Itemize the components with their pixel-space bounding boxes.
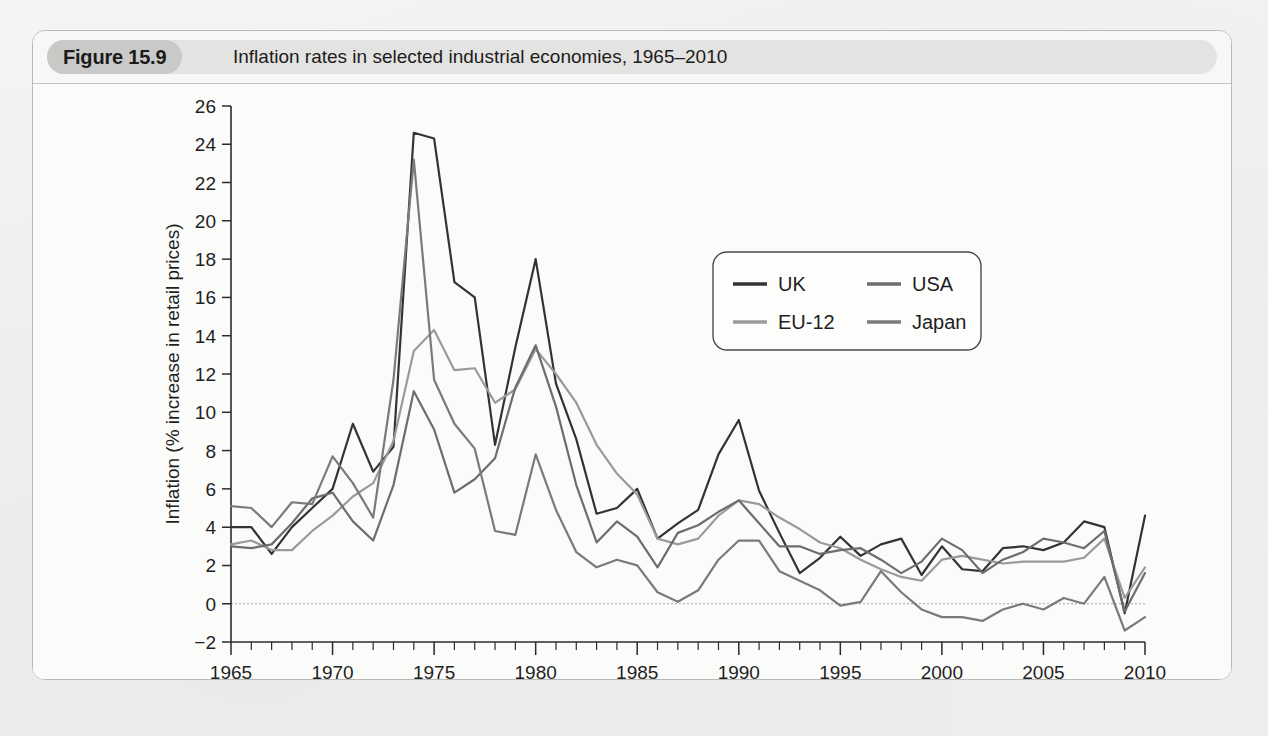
y-tick-label: −2 [194,632,216,653]
x-tick-label: 1985 [616,662,658,680]
figure-header: Inflation rates in selected industrial e… [33,31,1231,84]
x-tick-label: 1990 [718,662,760,680]
x-tick-label: 1970 [311,662,353,680]
y-tick-label: 12 [195,364,216,385]
chart-legend[interactable]: UKUSAEU-12Japan [713,252,981,350]
y-tick-label: 24 [195,134,217,155]
y-tick-label: 22 [195,173,216,194]
legend-label-usa: USA [912,273,954,295]
y-tick-label: 2 [205,555,216,576]
y-tick-label: 18 [195,249,216,270]
y-tick-label: 6 [205,479,216,500]
figure-body: −202468101214161820222426 19651970197519… [33,84,1231,680]
figure-card: Inflation rates in selected industrial e… [32,30,1232,680]
y-axis-title-text: Inflation (% increase in retail prices) [162,224,183,525]
y-tick-label: 0 [205,594,216,615]
x-tick-label: 2005 [1022,662,1064,680]
x-tick-label: 2000 [921,662,963,680]
legend-label-eu-12: EU-12 [778,311,835,333]
y-tick-label: 20 [195,211,216,232]
y-tick-label: 26 [195,96,216,117]
y-tick-label: 4 [205,517,216,538]
legend-label-uk: UK [778,273,806,295]
legend-label-japan: Japan [912,311,967,333]
inflation-line-chart: −202468101214161820222426 19651970197519… [33,84,1231,680]
x-tick-label: 1965 [210,662,252,680]
figure-number-badge: Figure 15.9 [47,40,182,74]
x-tick-label: 2010 [1124,662,1166,680]
x-tick-label: 1975 [413,662,455,680]
legend-panel[interactable] [713,252,981,350]
x-tick-label: 1980 [515,662,557,680]
y-tick-label: 14 [195,326,217,347]
x-tick-label: 1995 [819,662,861,680]
y-axis-title: Inflation (% increase in retail prices) [162,224,183,525]
y-tick-label: 16 [195,287,216,308]
y-tick-label: 8 [205,441,216,462]
figure-title: Inflation rates in selected industrial e… [47,40,1217,74]
y-tick-label: 10 [195,402,216,423]
